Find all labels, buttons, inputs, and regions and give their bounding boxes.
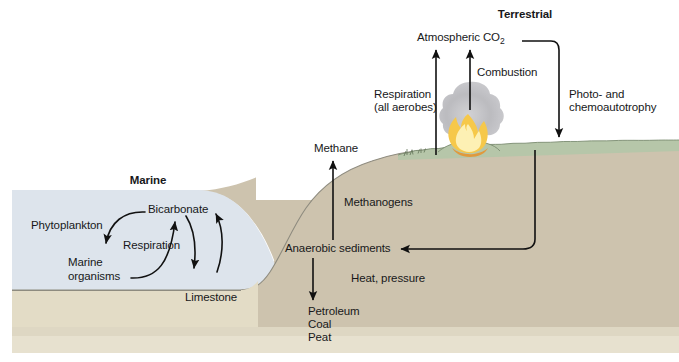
label-marine-organisms-line2: organisms: [68, 270, 120, 284]
label-photo-chemo-line1: Photo- and: [569, 88, 624, 102]
label-marine-organisms-line1: Marine: [68, 256, 103, 270]
label-limestone: Limestone: [185, 291, 237, 305]
label-peat: Peat: [308, 331, 331, 345]
geology-silhouette: [12, 0, 679, 340]
label-anaerobic-sediments: Anaerobic sediments: [285, 242, 391, 256]
bottom-band: [12, 335, 679, 353]
label-atmospheric-co2: Atmospheric CO2: [417, 31, 505, 46]
atmospheric-co2-text: Atmospheric CO: [417, 31, 500, 43]
marine-section-title: Marine: [130, 174, 166, 188]
label-methanogens: Methanogens: [344, 196, 413, 210]
label-combustion: Combustion: [477, 66, 537, 80]
label-bicarbonate: Bicarbonate: [148, 203, 208, 217]
label-methane: Methane: [314, 142, 358, 156]
carbon-cycle-diagram: Marine Terrestrial Phytoplankton Bicarbo…: [0, 0, 679, 362]
label-heat-pressure: Heat, pressure: [351, 272, 425, 286]
label-respiration-marine: Respiration: [123, 239, 180, 253]
label-photo-chemo-line2: chemoautotrophy: [569, 101, 656, 115]
label-phytoplankton: Phytoplankton: [31, 219, 103, 233]
bottom-band-upper: [12, 327, 679, 336]
label-coal: Coal: [308, 318, 331, 332]
label-respiration-terrestrial-line2: (all aerobes): [374, 101, 437, 115]
terrestrial-section-title: Terrestrial: [498, 8, 552, 22]
atmospheric-co2-subscript: 2: [500, 36, 505, 46]
label-respiration-terrestrial-line1: Respiration: [374, 88, 431, 102]
label-petroleum: Petroleum: [308, 305, 360, 319]
